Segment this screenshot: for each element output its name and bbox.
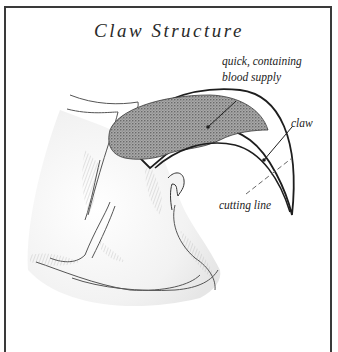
label-cutting-line: cutting line [219, 198, 271, 212]
label-claw: claw [291, 116, 313, 130]
label-quick-line2: blood supply [222, 70, 281, 84]
quick-leader-dot [206, 125, 210, 129]
quick-region [109, 95, 268, 159]
claw-leader-dot [262, 158, 266, 162]
label-quick-line1: quick, containing [222, 54, 302, 68]
